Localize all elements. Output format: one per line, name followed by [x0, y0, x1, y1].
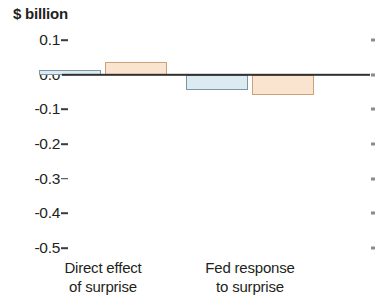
right-tick-mark: [371, 39, 375, 42]
y-tick-label: -0.2: [4, 135, 60, 153]
y-tick-label: -0.4: [4, 204, 60, 222]
y-tick-label: 0.0: [4, 66, 60, 84]
y-tick-mark: [61, 213, 68, 215]
plot-area: [70, 0, 370, 300]
zero-baseline: [62, 73, 370, 75]
y-tick-mark: [61, 178, 68, 180]
category-label-line: to surprise: [160, 277, 340, 296]
y-tick-mark: [61, 39, 68, 41]
y-tick-mark: [61, 247, 68, 249]
right-tick-mark: [371, 247, 375, 250]
y-tick-label: -0.1: [4, 100, 60, 118]
y-tick-mark: [61, 109, 68, 111]
right-tick-mark: [371, 177, 375, 180]
y-axis-title: $ billion: [13, 5, 68, 22]
bar-chart: $ billion 0.10.0-0.1-0.2-0.3-0.4-0.5 Dir…: [0, 0, 378, 300]
y-tick-label: -0.5: [4, 239, 60, 257]
right-tick-mark: [371, 73, 375, 76]
y-tick-label: 0.1: [4, 31, 60, 49]
right-tick-mark: [371, 143, 375, 146]
category-label-1: Fed responseto surprise: [160, 258, 340, 296]
y-tick-label: -0.3: [4, 170, 60, 188]
right-tick-mark: [371, 212, 375, 215]
category-label-line: Fed response: [160, 258, 340, 277]
bar-series-blue-group-1: [186, 75, 248, 91]
right-tick-mark: [371, 108, 375, 111]
y-tick-mark: [61, 143, 68, 145]
bar-series-peach-group-1: [252, 75, 314, 95]
